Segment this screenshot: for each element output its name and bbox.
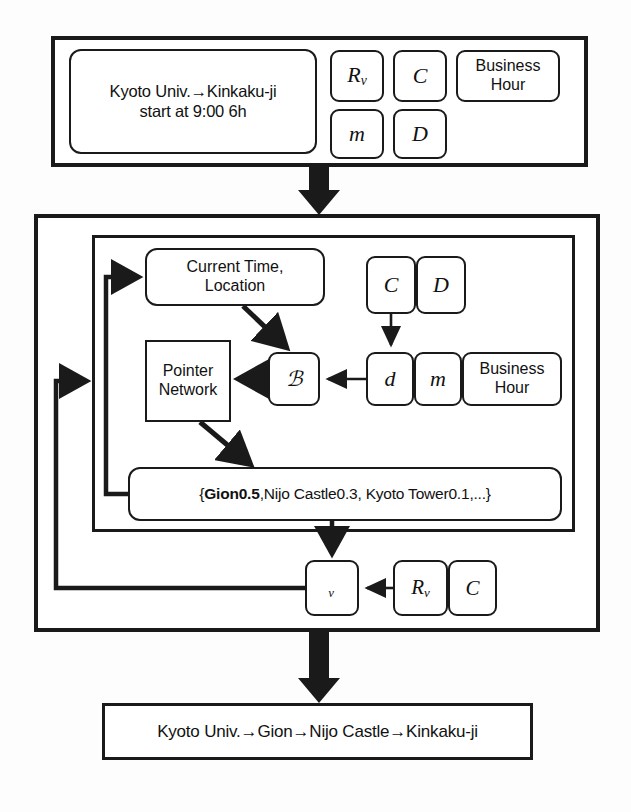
feature-box-c: C xyxy=(366,256,416,314)
feature-box-d-lower: d xyxy=(366,352,414,406)
distribution-text: {Gion0.5,Nijo Castle0.3, Kyoto Tower0.1,… xyxy=(199,485,491,503)
value-symbol: ᵥ xyxy=(329,576,335,601)
output-section-box: Kyoto Univ.→Gion→Nijo Castle→Kinkaku-ji xyxy=(102,703,533,760)
query-line-1: Kyoto Univ.→Kinkaku-ji xyxy=(110,82,277,101)
feature-box-business-hour: Business Hour xyxy=(462,352,562,406)
param-label-business-hour: Business Hour xyxy=(458,57,558,95)
query-line-2: start at 9:00 6h xyxy=(140,102,247,121)
query-box: Kyoto Univ.→Kinkaku-ji start at 9:00 6h xyxy=(69,49,317,154)
value-input-box-c: C xyxy=(448,560,497,616)
current-state-line-2: Location xyxy=(205,277,266,296)
param-label-c: C xyxy=(413,63,428,89)
feature-label-m: m xyxy=(430,366,446,392)
distribution-highlight: Gion0.5 xyxy=(204,485,259,502)
current-state-box: Current Time, Location xyxy=(145,248,325,306)
param-label-rv: Rv xyxy=(347,62,367,89)
param-box-business-hour: Business Hour xyxy=(456,50,560,102)
param-label-m: m xyxy=(349,121,365,147)
value-input-label-c: C xyxy=(465,576,479,601)
feature-box-d: D xyxy=(416,256,466,314)
output-route-text: Kyoto Univ.→Gion→Nijo Castle→Kinkaku-ji xyxy=(157,722,478,742)
attention-module-box: ℬ xyxy=(268,352,320,406)
block-arrow-input-to-model xyxy=(298,167,340,215)
feature-label-c: C xyxy=(384,272,399,298)
pointer-network-line-1: Pointer xyxy=(163,362,214,381)
value-input-label-rv: Rv xyxy=(411,575,430,600)
param-box-c: C xyxy=(393,50,447,102)
param-label-d: D xyxy=(412,121,428,147)
pointer-network-line-2: Network xyxy=(159,381,218,400)
value-module-box: ᵥ xyxy=(305,560,359,616)
feature-label-d-lower: d xyxy=(385,366,396,392)
pointer-network-box: Pointer Network xyxy=(145,340,231,422)
feature-box-m: m xyxy=(414,352,462,406)
feature-label-d: D xyxy=(433,272,449,298)
block-arrow-model-to-output xyxy=(298,632,340,703)
attention-symbol: ℬ xyxy=(286,367,303,392)
param-box-m: m xyxy=(330,109,384,159)
current-state-line-1: Current Time, xyxy=(187,258,284,277)
diagram-canvas: Kyoto Univ.→Kinkaku-ji start at 9:00 6h … xyxy=(0,0,631,812)
param-box-d: D xyxy=(393,109,447,159)
value-input-box-rv: Rv xyxy=(393,560,448,616)
param-box-rv: Rv xyxy=(330,50,384,102)
feature-label-business-hour: Business Hour xyxy=(464,360,560,398)
distribution-box: {Gion0.5,Nijo Castle0.3, Kyoto Tower0.1,… xyxy=(128,467,562,521)
